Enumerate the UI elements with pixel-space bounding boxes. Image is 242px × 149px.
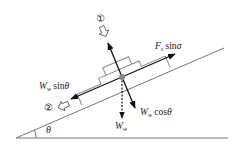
ww-label: Ww <box>115 121 127 132</box>
ww-sin-label: Ww sinθ <box>39 81 69 92</box>
angle-label: θ <box>46 124 51 135</box>
marker-1: ① <box>96 13 105 24</box>
ww-cos-label: Ww cosθ <box>140 107 172 118</box>
ww-cos-arrow <box>122 77 135 108</box>
fs-sin-arrow <box>122 54 175 77</box>
marker-2: ② <box>44 102 53 113</box>
fs-sin-label: Fs sinσ <box>154 41 182 52</box>
hollow-arrow-1-icon <box>97 25 111 39</box>
hollow-arrow-2-icon <box>56 99 70 113</box>
incline-diagram: θ ① ② Fs sinσ Ww sinθ Ww cosθ Ww <box>0 0 242 149</box>
center-of-mass-dot <box>119 74 125 80</box>
angle-arc <box>34 130 36 138</box>
